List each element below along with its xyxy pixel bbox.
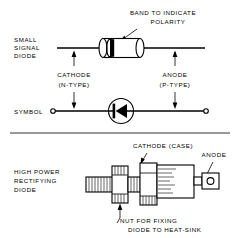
small-signal-label-line2: SIGNAL bbox=[14, 44, 40, 51]
nut-caption-line2: DIODE TO HEAT-SINK bbox=[128, 226, 202, 233]
diode-symbol-cathode-bar bbox=[113, 104, 116, 119]
anode-pointer-arrow-up bbox=[173, 51, 178, 58]
small-signal-label-line3: DIODE bbox=[14, 52, 36, 59]
high-power-label-line3: DIODE bbox=[14, 186, 36, 193]
diode-body-barrel bbox=[103, 39, 140, 58]
high-power-label-line1: HIGH POWER bbox=[14, 168, 60, 175]
cathode-label-line1: CATHODE bbox=[57, 71, 91, 78]
nut-caption-line1: NUT FOR FIXING bbox=[120, 217, 177, 224]
stud-anode-label: ANODE bbox=[202, 151, 227, 158]
case-cathode-label: CATHODE (CASE) bbox=[133, 142, 193, 149]
diode-body-right-cap bbox=[136, 39, 144, 58]
small-signal-label-line1: SMALL bbox=[14, 36, 37, 43]
symbol-terminal-right bbox=[204, 109, 209, 114]
cathode-pointer-arrow-up bbox=[72, 51, 77, 58]
cathode-pointer-arrow-down bbox=[72, 103, 77, 110]
hex-nut-inner bbox=[140, 163, 157, 205]
diode-body-left-cap bbox=[99, 39, 107, 58]
anode-label-line2: (P-TYPE) bbox=[160, 81, 191, 88]
anode-pointer-arrow-down bbox=[173, 103, 178, 110]
cathode-label-line2: (N-TYPE) bbox=[58, 81, 89, 88]
hex-nut-outer bbox=[112, 166, 128, 203]
band-callout-line1: BAND TO INDICATE bbox=[130, 9, 196, 16]
high-power-label-line2: RECTIFYING bbox=[14, 177, 57, 184]
anode-terminal-eyelet bbox=[207, 178, 214, 185]
symbol-terminal-left bbox=[51, 109, 56, 114]
diagram-canvas: BAND TO INDICATE POLARITY SMALL SIGNAL D… bbox=[0, 0, 240, 238]
nut-callout-arrowhead bbox=[118, 204, 123, 211]
symbol-row-label: SYMBOL bbox=[14, 108, 43, 115]
anode-terminal-neck bbox=[194, 177, 202, 185]
diode-diagram-figure: BAND TO INDICATE POLARITY SMALL SIGNAL D… bbox=[0, 0, 240, 238]
band-callout-line2: POLARITY bbox=[150, 18, 185, 25]
anode-label-line1: ANODE bbox=[163, 71, 188, 78]
